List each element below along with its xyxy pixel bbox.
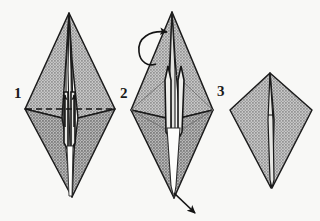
step-number-3: 3 <box>217 84 225 99</box>
step-number-2: 2 <box>120 86 128 101</box>
origami-diagram-svg <box>0 0 320 221</box>
step-number-1: 1 <box>14 86 22 101</box>
origami-diagram-figure: 1 2 3 <box>0 0 320 221</box>
